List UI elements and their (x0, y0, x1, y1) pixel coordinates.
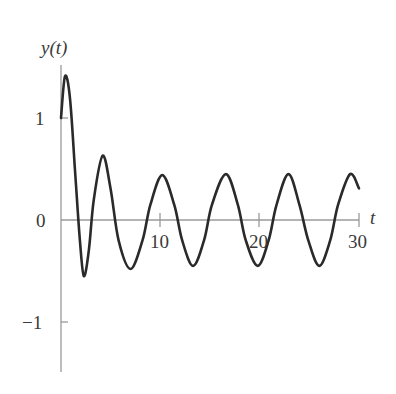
x-axis-label: t (370, 208, 375, 227)
y-tick-label-minus-1: −1 (22, 313, 42, 332)
x-tick-label-20: 20 (249, 232, 268, 251)
y-tick-label-1: 1 (35, 109, 45, 128)
chart-plot-area (0, 0, 396, 394)
x-tick-label-30: 30 (348, 232, 367, 251)
series-line-y (61, 76, 359, 277)
y-axis-label: y(t) (41, 38, 67, 57)
x-tick-label-10: 10 (150, 232, 169, 251)
y-tick-label-0: 0 (36, 211, 46, 230)
